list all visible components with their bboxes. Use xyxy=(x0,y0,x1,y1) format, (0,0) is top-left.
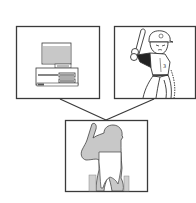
svg-text:3: 3 xyxy=(163,63,166,69)
diagram-canvas: 3 xyxy=(0,0,196,203)
connector-left-line xyxy=(60,99,106,120)
connector xyxy=(60,99,154,120)
panel-background-source xyxy=(17,27,100,99)
panel-composite-result xyxy=(66,121,148,192)
connector-right-line xyxy=(106,99,154,120)
panel-foreground-source: 3 xyxy=(115,27,196,99)
